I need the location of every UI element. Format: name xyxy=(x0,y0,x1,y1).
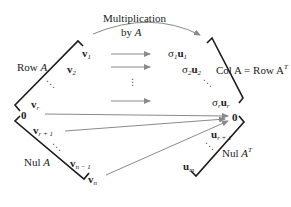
u-sub: 1 xyxy=(184,53,188,61)
v-sub: r xyxy=(37,104,40,112)
arrow-zero xyxy=(45,114,228,116)
transpose-sup: T xyxy=(248,146,252,154)
vector-um: um xyxy=(183,161,194,174)
multiplication-text: Multiplication xyxy=(103,12,166,24)
vector-sigma2-u2: σ2u2 xyxy=(182,64,201,77)
transpose-sup: T xyxy=(284,63,288,71)
col-a-row-at-label: Col A = Row AT xyxy=(216,64,288,76)
vector-sigma1-u1: σ1u1 xyxy=(168,48,187,61)
vector-v1: v1 xyxy=(82,48,91,61)
vector-vr-plus-1: vr + 1 xyxy=(33,125,53,138)
by-text: by xyxy=(121,26,135,38)
vector-vn-minus-1: vn − 1 xyxy=(70,158,91,171)
v-sub: r + 1 xyxy=(39,130,53,138)
nul-text: Nul xyxy=(24,156,43,168)
u-sub: 2 xyxy=(198,69,202,77)
v-sub: 1 xyxy=(88,53,92,61)
ellipsis-middle: ⋮ xyxy=(128,78,137,87)
multiplication-label: Multiplication xyxy=(103,13,166,24)
multiplication-curve-arrow xyxy=(93,22,200,35)
nul-at-label: Nul AT xyxy=(222,147,252,159)
vector-vr: vr xyxy=(31,99,39,112)
zero-right: 0 xyxy=(232,112,238,123)
v-sub: n − 1 xyxy=(76,163,91,171)
row-a-label: Row A xyxy=(17,62,47,73)
row-a-var: A xyxy=(41,61,48,73)
u-sub: m xyxy=(189,166,194,174)
by-a-label: by A xyxy=(121,27,141,38)
vector-sigmar-ur: σrur xyxy=(212,97,230,110)
zero-left: 0 xyxy=(21,110,27,121)
nul-text: Nul xyxy=(222,147,241,159)
col-label-text: Col A = Row A xyxy=(216,64,284,76)
a-var: A xyxy=(135,26,142,38)
ellipsis-left-upper: ⋱ xyxy=(46,80,55,89)
nul-a-var: A xyxy=(43,156,50,168)
row-text: Row xyxy=(17,61,41,73)
nul-a-var: A xyxy=(241,147,248,159)
svd-mapping-diagram: Multiplication by A Row A Nul A v1 v2 ⋱ … xyxy=(0,0,291,207)
u-sub: r xyxy=(227,102,230,110)
v-sub: 2 xyxy=(73,69,77,77)
ellipsis-left-lower: ⋱ xyxy=(52,143,61,152)
vector-vn: vn xyxy=(88,174,97,187)
nul-a-label: Nul A xyxy=(24,157,50,168)
u-sub: r + 1 xyxy=(217,134,231,142)
vector-v2: v2 xyxy=(67,64,76,77)
left-null-space-bracket xyxy=(191,116,244,176)
ellipsis-right-lower: ⋱ xyxy=(205,142,214,151)
diagram-lines xyxy=(0,0,291,207)
v-sub: n xyxy=(94,179,98,187)
ellipsis-right-upper: ⋱ xyxy=(203,79,212,88)
arrow-vr1 xyxy=(65,119,225,131)
vector-ur-plus-1: ur + 1 xyxy=(211,129,232,142)
